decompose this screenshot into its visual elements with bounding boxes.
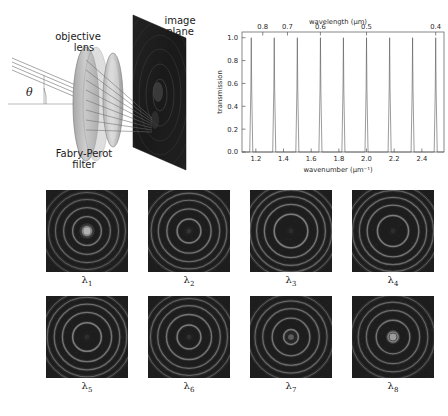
objective-lens-label-line2: lens: [74, 42, 94, 53]
y-tick-label: 0.8: [227, 57, 238, 65]
fringe-caption-lambda-5: λ5: [46, 380, 128, 394]
image-plane-label-line2: plane: [166, 26, 194, 37]
fringe-panel-row-1: λ1λ2λ3λ4: [0, 190, 448, 302]
top-x-tick-label: 0.7: [282, 23, 293, 31]
x-tick-label: 1.6: [306, 155, 317, 163]
fringe-caption-lambda-1: λ1: [46, 274, 128, 288]
transmission-trace: [242, 38, 444, 152]
fringe-image-lambda-5: [46, 296, 128, 378]
transmission-spectrum-chart: 1.21.41.61.82.02.22.40.00.20.40.60.81.00…: [212, 12, 448, 180]
fringe-caption-lambda-7: λ7: [250, 380, 332, 394]
x-tick-label: 1.2: [250, 155, 261, 163]
fabry-perot-filter-label-line2: filter: [72, 159, 96, 170]
y-axis-title: transmission: [216, 70, 224, 113]
x-axis-title: wavenumber (µm⁻¹): [303, 166, 373, 174]
fringe-caption-lambda-3: λ3: [250, 274, 332, 288]
caption-index: 6: [190, 386, 194, 394]
top-x-tick-label: 0.8: [257, 23, 268, 31]
x-tick-label: 2.4: [416, 155, 427, 163]
fringe-image-lambda-7: [250, 296, 332, 378]
caption-index: 4: [394, 280, 398, 288]
image-plane-label-line1: image: [164, 15, 195, 26]
y-tick-label: 0.0: [227, 148, 238, 156]
theta-symbol-text: θ: [26, 86, 33, 99]
caption-index: 8: [394, 386, 398, 394]
caption-index: 5: [88, 386, 92, 394]
y-tick-label: 1.0: [227, 34, 238, 42]
fringe-image-lambda-8: [352, 296, 434, 378]
theta-arc: [44, 88, 46, 104]
caption-index: 1: [88, 280, 92, 288]
top-x-tick-label: 0.4: [430, 23, 441, 31]
caption-index: 3: [292, 280, 296, 288]
x-tick-label: 2.2: [389, 155, 400, 163]
x-tick-label: 2.0: [361, 155, 372, 163]
fringe-caption-lambda-6: λ6: [148, 380, 230, 394]
fabry-perot-filter-label-line1: Fabry-Perot: [56, 148, 113, 159]
fringe-image-lambda-3: [250, 190, 332, 272]
x-tick-label: 1.4: [278, 155, 289, 163]
top-x-axis-title: wavelength (µm): [309, 18, 367, 26]
caption-index: 7: [292, 386, 296, 394]
fringe-image-lambda-2: [148, 190, 230, 272]
fringe-image-lambda-6: [148, 296, 230, 378]
fringe-caption-lambda-8: λ8: [352, 380, 434, 394]
fringe-image-lambda-4: [352, 190, 434, 272]
y-tick-label: 0.4: [227, 103, 238, 111]
fringe-caption-lambda-2: λ2: [148, 274, 230, 288]
fringe-caption-lambda-4: λ4: [352, 274, 434, 288]
x-tick-label: 1.8: [333, 155, 344, 163]
optics-schematic: θ objective lens image plane: [0, 0, 224, 182]
fringe-panel-row-2: λ5λ6λ7λ8: [0, 296, 448, 408]
y-tick-label: 0.2: [227, 126, 238, 134]
fringe-image-lambda-1: [46, 190, 128, 272]
y-tick-label: 0.6: [227, 80, 238, 88]
figure-root: θ objective lens image plane: [0, 0, 448, 416]
caption-index: 2: [190, 280, 194, 288]
objective-lens-label-line1: objective: [55, 31, 101, 42]
